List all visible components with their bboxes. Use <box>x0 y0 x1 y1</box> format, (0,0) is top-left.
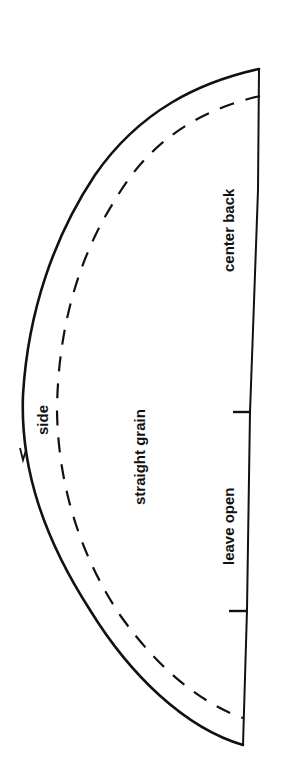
label-leave-open: leave open <box>220 487 237 565</box>
label-straight-grain: straight grain <box>131 409 148 505</box>
label-side: side <box>34 405 51 435</box>
pattern-diagram: center back straight grain leave open si… <box>0 0 295 779</box>
label-center-back: center back <box>220 188 237 272</box>
straight-edge-center-back <box>243 69 259 745</box>
